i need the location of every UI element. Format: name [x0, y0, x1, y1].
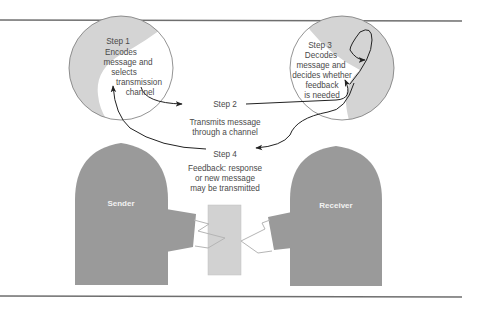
- svg-text:Decodes: Decodes: [305, 51, 337, 60]
- step4-label: Step 4: [213, 150, 237, 159]
- svg-text:message and: message and: [296, 61, 346, 70]
- step4-text: Step 4 Feedback: response or new message…: [188, 150, 263, 193]
- svg-text:or new message: or new message: [195, 174, 256, 183]
- receiver-hand-icon: [241, 220, 272, 253]
- receiver-head: [290, 10, 400, 130]
- message-rectangle-icon: [208, 205, 241, 275]
- svg-text:may be transmitted: may be transmitted: [190, 184, 260, 193]
- svg-text:Transmits message: Transmits message: [189, 118, 261, 127]
- svg-text:Encodes: Encodes: [105, 48, 137, 57]
- svg-text:selects: selects: [111, 68, 136, 77]
- receiver-body: Receiver: [268, 146, 382, 286]
- svg-text:through a channel: through a channel: [192, 128, 258, 137]
- svg-text:channel: channel: [126, 88, 155, 97]
- step1-label: Step 1: [106, 37, 130, 46]
- receiver-label: Receiver: [319, 201, 352, 210]
- top-rule: [0, 20, 462, 21]
- svg-text:is needed: is needed: [304, 91, 340, 100]
- sender-label: Sender: [107, 199, 134, 208]
- svg-text:feedback: feedback: [305, 81, 339, 90]
- step2-text: Step 2 Transmits message through a chann…: [189, 100, 261, 137]
- bottom-rule: [0, 296, 462, 297]
- svg-text:transmission: transmission: [116, 78, 162, 87]
- step3-label: Step 3: [308, 41, 332, 50]
- step2-label: Step 2: [213, 100, 237, 109]
- svg-text:decides whether: decides whether: [292, 71, 352, 80]
- sender-body: Sender: [75, 143, 196, 285]
- communication-diagram: Sender Receiver Step 1 Encodes message a…: [0, 0, 477, 311]
- svg-text:message and: message and: [103, 58, 153, 67]
- svg-text:Feedback: response: Feedback: response: [188, 164, 263, 173]
